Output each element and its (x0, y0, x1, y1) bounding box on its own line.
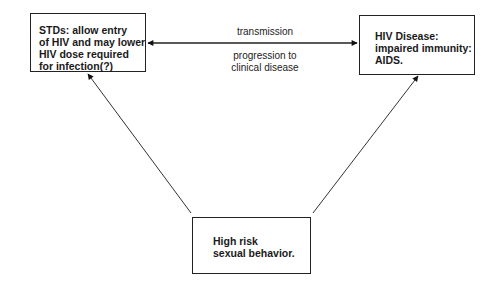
stds-line-4: for infection(?) (39, 60, 145, 72)
hiv-line-2: impaired immunity: (375, 42, 472, 54)
stds-line-2: of HIV and may lower (39, 36, 145, 48)
stds-line-3: HIV dose required (39, 48, 145, 60)
high-risk-behavior-box: High risk sexual behavior. (192, 217, 311, 274)
high-risk-box-text: High risk sexual behavior. (213, 235, 295, 259)
risk-line-1: High risk (213, 235, 295, 247)
hiv-line-3: AIDS. (375, 54, 472, 66)
hiv-disease-box-text: HIV Disease: impaired immunity: AIDS. (375, 30, 472, 66)
stds-box-text: STDs: allow entry of HIV and may lower H… (39, 24, 145, 72)
left-diagonal-arrow (88, 74, 191, 213)
transmission-label: transmission (225, 26, 305, 38)
progression-line-1: progression to (215, 50, 315, 62)
stds-line-1: STDs: allow entry (39, 24, 145, 36)
hiv-disease-box: HIV Disease: impaired immunity: AIDS. (359, 15, 475, 75)
right-diagonal-arrow (313, 76, 418, 213)
risk-line-2: sexual behavior. (213, 247, 295, 259)
hiv-line-1: HIV Disease: (375, 30, 472, 42)
progression-label: progression to clinical disease (215, 50, 315, 74)
progression-line-2: clinical disease (215, 62, 315, 74)
stds-box: STDs: allow entry of HIV and may lower H… (30, 13, 146, 72)
